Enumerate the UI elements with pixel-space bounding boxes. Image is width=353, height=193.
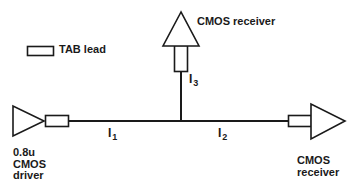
current-subscript-i2: 2 (221, 132, 227, 142)
top-receiver-label: CMOS receiver (197, 16, 275, 28)
driver-label: 0.8u CMOS driver (13, 147, 46, 182)
diagram-canvas: CMOS receiver TAB lead 0.8u CMOS driver … (0, 0, 353, 193)
right-receiver-tab-lead-icon (289, 116, 312, 127)
top-receiver-triangle-icon (163, 12, 199, 46)
legend-label: TAB lead (59, 44, 106, 56)
legend-tab-lead-icon (28, 47, 54, 56)
right-receiver-label: CMOS receiver (297, 155, 339, 178)
right-receiver-triangle-icon (311, 104, 345, 139)
driver-tab-lead-icon (46, 116, 69, 127)
current-label-i2: I2 (218, 126, 227, 142)
driver-triangle-icon (13, 106, 44, 136)
current-subscript-i3: 3 (192, 78, 198, 88)
top-receiver-tab-lead-icon (175, 46, 188, 72)
current-subscript-i1: 1 (111, 132, 117, 142)
current-label-i3: I3 (189, 72, 198, 88)
current-label-i1: I1 (108, 126, 117, 142)
